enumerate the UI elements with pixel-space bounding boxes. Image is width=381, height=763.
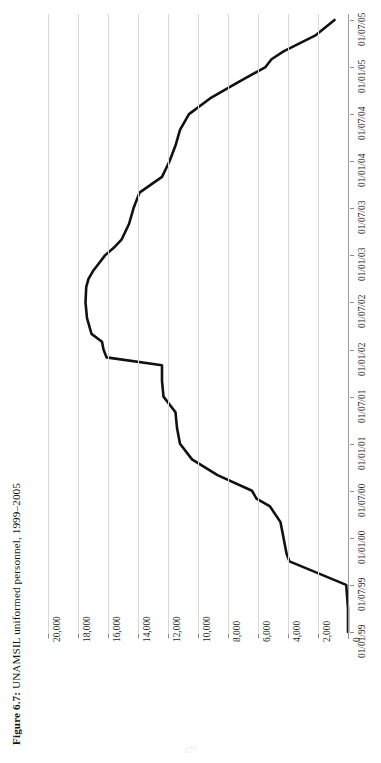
- value-axis-label: 18,000: [82, 616, 92, 642]
- date-tick: [350, 20, 354, 21]
- value-axis-label: 6,000: [262, 621, 272, 642]
- gridline: [228, 14, 229, 639]
- value-axis-label: 8,000: [232, 621, 242, 642]
- value-tick: [318, 634, 319, 638]
- value-axis-label: 2,000: [322, 621, 332, 642]
- gridline: [318, 14, 319, 639]
- date-axis-label: 01/01/04: [357, 154, 367, 187]
- date-axis-label: 01/07/99: [357, 578, 367, 611]
- date-axis-label: 01/01/01: [357, 436, 367, 469]
- date-tick: [350, 67, 354, 68]
- gridline: [258, 14, 259, 639]
- date-axis-label: 01/01/99: [357, 625, 367, 658]
- date-tick: [350, 255, 354, 256]
- gridline: [138, 14, 139, 639]
- value-axis-label: 20,000: [52, 616, 62, 642]
- date-tick: [350, 397, 354, 398]
- value-axis-label: 16,000: [112, 616, 122, 642]
- value-axis-label: 14,000: [142, 616, 152, 642]
- figure-caption-label: Figure 6.7:: [10, 692, 22, 745]
- value-axis-label: 10,000: [202, 616, 212, 642]
- value-tick: [168, 634, 169, 638]
- value-axis-label: 4,000: [292, 621, 302, 642]
- date-tick: [350, 208, 354, 209]
- figure-caption-text: UNAMSIL uniformed personnel, 1999–2005: [10, 483, 22, 692]
- date-tick: [350, 585, 354, 586]
- date-axis-label: 01/07/01: [357, 389, 367, 422]
- date-axis-label: 01/01/02: [357, 342, 367, 375]
- value-tick: [48, 634, 49, 638]
- gridline: [168, 14, 169, 639]
- page-number: 177: [0, 746, 381, 755]
- date-tick: [350, 538, 354, 539]
- gridline: [108, 14, 109, 639]
- figure-caption: Figure 6.7: UNAMSIL uniformed personnel,…: [10, 483, 22, 745]
- date-axis-label: 01/07/02: [357, 295, 367, 328]
- date-axis-label: 01/01/05: [357, 60, 367, 93]
- date-tick: [350, 632, 354, 633]
- value-tick: [138, 634, 139, 638]
- gridline: [78, 14, 79, 639]
- date-axis-label: 01/07/03: [357, 201, 367, 234]
- date-tick: [350, 444, 354, 445]
- value-axis-line: [348, 14, 349, 639]
- value-tick: [288, 634, 289, 638]
- date-tick: [350, 161, 354, 162]
- value-tick: [198, 634, 199, 638]
- figure-caption-container: Figure 6.7: UNAMSIL uniformed personnel,…: [0, 0, 34, 763]
- date-axis-label: 01/07/00: [357, 483, 367, 516]
- date-axis-label: 01/07/05: [357, 13, 367, 46]
- value-tick: [108, 634, 109, 638]
- date-tick: [350, 114, 354, 115]
- value-axis-label: 12,000: [172, 616, 182, 642]
- gridline: [48, 14, 49, 639]
- value-tick: [348, 634, 349, 638]
- date-axis-label: 01/01/03: [357, 248, 367, 281]
- date-axis-label: 01/07/04: [357, 107, 367, 140]
- chart-plot-area: 20,00018,00016,00014,00012,00010,0008,00…: [40, 14, 355, 639]
- date-tick: [350, 491, 354, 492]
- value-tick: [228, 634, 229, 638]
- gridline: [198, 14, 199, 639]
- value-tick: [78, 634, 79, 638]
- gridline: [288, 14, 289, 639]
- date-axis-label: 01/01/00: [357, 531, 367, 564]
- value-tick: [258, 634, 259, 638]
- date-tick: [350, 350, 354, 351]
- date-tick: [350, 302, 354, 303]
